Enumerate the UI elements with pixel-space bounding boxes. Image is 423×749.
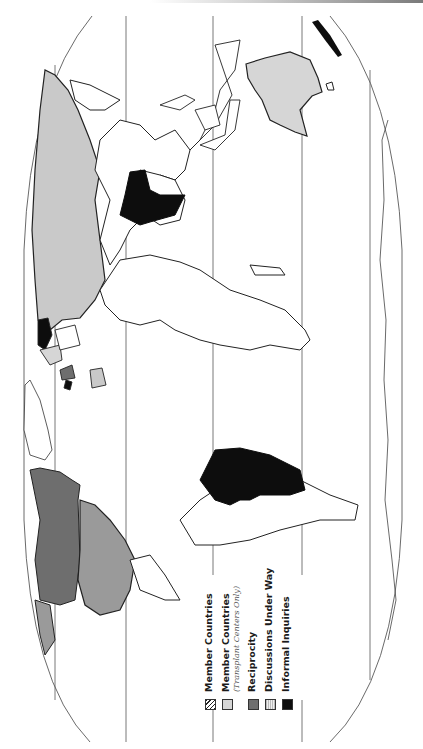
legend-label: Member Countries	[203, 593, 215, 692]
map-legend: Member Countries Member Countries (Trans…	[203, 560, 313, 710]
region-europe	[38, 318, 106, 390]
region-new-zealand	[326, 82, 334, 90]
region-antarctica	[380, 120, 396, 640]
legend-item-discussions: Discussions Under Way	[263, 560, 280, 710]
world-map-figure: Member Countries Member Countries (Trans…	[0, 0, 423, 749]
region-africa	[100, 255, 310, 350]
region-alaska	[35, 600, 55, 655]
swatch-discussion-icon	[265, 699, 276, 710]
legend-label-main: Member Countries	[220, 593, 231, 692]
region-usa	[78, 500, 135, 615]
legend-item-reciprocity: Reciprocity	[246, 560, 263, 710]
legend-item-member-transplant: Member Countries (Transplant Centers Onl…	[220, 560, 246, 710]
legend-label: Informal Inquiries	[280, 596, 292, 692]
region-canada	[30, 468, 80, 605]
swatch-reciprocity-icon	[248, 699, 259, 710]
region-australia	[246, 52, 322, 136]
legend-label: Reciprocity	[246, 632, 258, 692]
legend-label: Discussions Under Way	[263, 568, 275, 692]
region-greenland	[24, 380, 52, 460]
swatch-member-icon	[205, 699, 216, 710]
region-central-america	[130, 555, 180, 600]
legend-sublabel: (Transplant Centers Only)	[232, 586, 242, 692]
legend-item-informal: Informal Inquiries	[280, 560, 297, 710]
swatch-transplant-icon	[222, 699, 233, 710]
legend-label: Member Countries (Transplant Centers Onl…	[220, 586, 242, 692]
legend-item-member: Member Countries	[203, 560, 220, 710]
swatch-informal-icon	[282, 699, 293, 710]
